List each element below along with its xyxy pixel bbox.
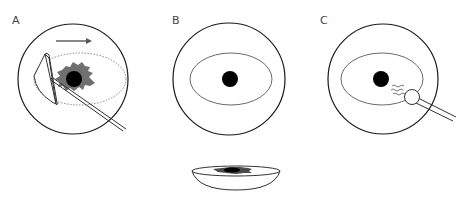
nucleus-side bbox=[224, 168, 240, 173]
panel-b: B bbox=[172, 14, 285, 135]
panel-c-label: C bbox=[320, 14, 328, 27]
nucleus-c bbox=[373, 71, 389, 87]
side-view-dish bbox=[192, 166, 280, 190]
arrow-right-icon bbox=[56, 38, 92, 44]
panel-a: A bbox=[12, 14, 128, 134]
nucleus-a bbox=[66, 71, 82, 87]
panel-b-label: B bbox=[172, 14, 180, 27]
wave-lines-icon bbox=[391, 85, 405, 95]
nucleus-b bbox=[222, 71, 238, 87]
panel-c: C bbox=[320, 14, 456, 134]
figure-canvas: A B C bbox=[0, 0, 466, 200]
panel-a-label: A bbox=[12, 14, 20, 27]
probe-instrument bbox=[405, 90, 457, 122]
